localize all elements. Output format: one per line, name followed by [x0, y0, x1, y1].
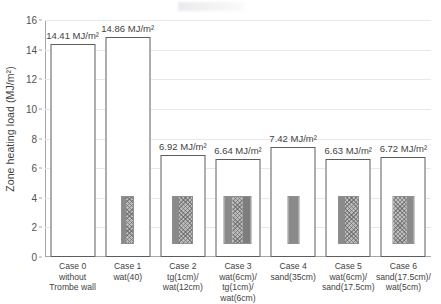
wall-section-diagram: [338, 196, 359, 244]
bar[interactable]: [215, 159, 260, 257]
x-axis-category-label: Case 3wat(6cm)/tg(1cm)/wat(6cm): [210, 261, 265, 303]
x-axis-category-line: tg(1cm)/: [210, 282, 265, 293]
y-axis-tick-label: 14: [26, 44, 37, 55]
bar-group: 14.41 MJ/m²: [45, 20, 100, 257]
wall-layer: [393, 197, 406, 243]
x-axis-category-line: without: [45, 272, 100, 283]
x-axis-category-line: Case 4: [266, 261, 321, 272]
y-axis-tick-labels: 0246810121416: [18, 0, 42, 277]
wall-layer: [179, 197, 192, 243]
y-axis-tick-label: 6: [31, 163, 37, 174]
bar-value-label: 7.42 MJ/m²: [269, 133, 317, 144]
x-axis-category-line: sand(35cm): [266, 272, 321, 283]
x-axis-category-line: wat(6cm)/: [210, 272, 265, 283]
wall-layer: [126, 197, 133, 243]
y-axis-tick-mark: [39, 138, 42, 139]
bar-value-label: 14.41 MJ/m²: [46, 30, 99, 41]
bar-value-label: 6.63 MJ/m²: [325, 145, 373, 156]
bar-value-label: 6.64 MJ/m²: [214, 145, 262, 156]
bar-value-label: 6.72 MJ/m²: [380, 143, 428, 154]
wall-layer: [345, 197, 358, 243]
bar[interactable]: [105, 37, 150, 257]
y-axis-tick-mark: [39, 168, 42, 169]
x-axis-category-line: Trombe wall: [45, 282, 100, 293]
x-axis-category-line: wat(12cm): [155, 282, 210, 293]
y-axis-tick-label: 8: [31, 133, 37, 144]
y-axis-tick-mark: [39, 108, 42, 109]
bar-value-label: 14.86 MJ/m²: [101, 23, 154, 34]
bar-group: 6.64 MJ/m²: [210, 20, 265, 257]
x-axis-category-line: wat(5cm): [376, 282, 431, 293]
x-axis-category-label: Case 5wat(6cm)/sand(17.5cm): [321, 261, 376, 293]
bar-group: 6.72 MJ/m²: [376, 20, 431, 257]
wall-section-diagram: [121, 196, 134, 244]
x-axis-category-line: tg(1cm)/: [155, 272, 210, 283]
wall-section-diagram: [392, 196, 414, 244]
y-axis-tick-mark: [39, 197, 42, 198]
y-axis-title-text: Zone heating load (MJ/m²): [4, 66, 16, 192]
bar-group: 7.42 MJ/m²: [266, 20, 321, 257]
x-axis-category-line: Case 1: [100, 261, 155, 272]
bar-group: 14.86 MJ/m²: [100, 20, 155, 257]
wall-layer: [406, 197, 413, 243]
wall-section-diagram: [172, 196, 193, 244]
y-axis-tick-mark: [39, 49, 42, 50]
y-axis-tick-label: 10: [26, 103, 37, 114]
y-axis-tick-label: 0: [31, 252, 37, 263]
x-axis-category-line: Case 0: [45, 261, 100, 272]
y-axis-tick-mark: [39, 20, 42, 21]
bar[interactable]: [381, 157, 426, 257]
x-axis-category-line: Case 2: [155, 261, 210, 272]
x-axis-category-line: sand(17.5cm): [321, 282, 376, 293]
wall-section-diagram: [224, 196, 252, 244]
bar-group: 6.63 MJ/m²: [321, 20, 376, 257]
bar[interactable]: [271, 147, 316, 257]
wall-layer: [288, 197, 298, 243]
bar[interactable]: [326, 159, 371, 257]
x-axis-category-label: Case 0withoutTrombe wall: [45, 261, 100, 293]
wall-layer: [233, 197, 243, 243]
bar-value-label: 6.92 MJ/m²: [159, 141, 207, 152]
bar[interactable]: [160, 155, 205, 258]
wall-layer: [225, 197, 233, 243]
y-axis-title: Zone heating load (MJ/m²): [0, 0, 20, 258]
x-axis-category-label: Case 6sand(17.5cm)/wat(5cm): [376, 261, 431, 293]
x-axis-category-label: Case 4sand(35cm): [266, 261, 321, 282]
y-axis-tick-mark: [39, 257, 42, 258]
x-axis-category-label: Case 1wat(40): [100, 261, 155, 282]
wall-layer: [243, 197, 251, 243]
y-axis-tick-mark: [39, 79, 42, 80]
bar-group: 6.92 MJ/m²: [155, 20, 210, 257]
x-axis-category-line: wat(6cm): [210, 293, 265, 304]
y-axis-tick-label: 4: [31, 192, 37, 203]
x-axis-category-line: Case 5: [321, 261, 376, 272]
bars-layer: 14.41 MJ/m²14.86 MJ/m²6.92 MJ/m²6.64 MJ/…: [45, 20, 431, 257]
x-axis-category-line: Case 6: [376, 261, 431, 272]
x-axis-category-labels: Case 0withoutTrombe wallCase 1wat(40)Cas…: [45, 261, 431, 304]
x-axis-category-line: wat(6cm)/: [321, 272, 376, 283]
x-axis-category-line: Case 3: [210, 261, 265, 272]
wall-section-diagram: [287, 196, 299, 244]
x-axis-category-line: sand(17.5cm)/: [376, 272, 431, 283]
zone-heating-load-bar-chart: Zone heating load (MJ/m²) 0246810121416 …: [0, 0, 441, 304]
scan-artifact: [178, 2, 244, 11]
x-axis-category-label: Case 2tg(1cm)/wat(12cm): [155, 261, 210, 293]
y-axis-tick-label: 12: [26, 74, 37, 85]
x-axis-category-line: wat(40): [100, 272, 155, 283]
y-axis-tick-label: 16: [26, 15, 37, 26]
y-axis-tick-label: 2: [31, 222, 37, 233]
bar[interactable]: [50, 44, 95, 257]
y-axis-tick-mark: [39, 227, 42, 228]
